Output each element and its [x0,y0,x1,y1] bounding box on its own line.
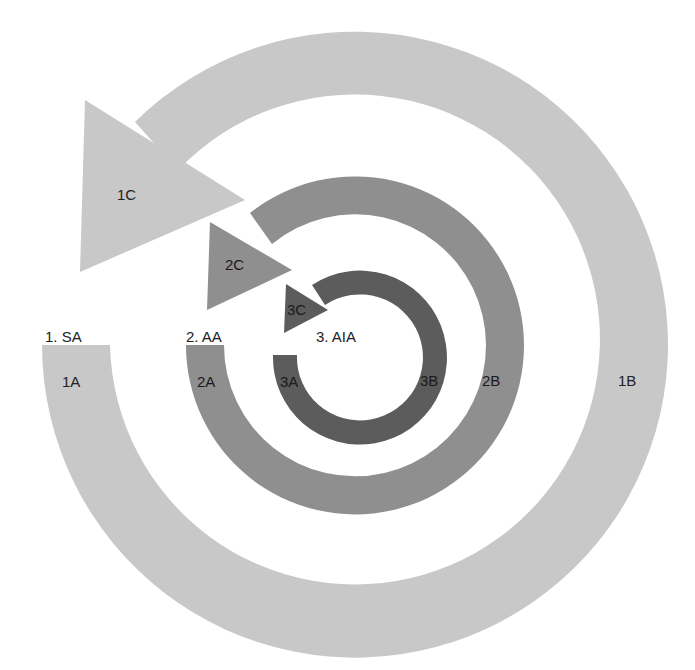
segment-1a-label: 1A [62,373,80,390]
segment-3a-label: 3A [280,373,298,390]
circular-arrows-diagram: 1. SA 2. AA 3. AIA 1A 1B 1C 2A 2B 2C 3A … [0,0,695,670]
ring-1-title: 1. SA [45,328,82,345]
ring-2-band [186,176,524,514]
ring-3-arrow [273,271,447,445]
segment-2c-label: 2C [225,256,244,273]
segment-2a-label: 2A [197,373,215,390]
segment-1c-label: 1C [117,186,136,203]
segment-2b-label: 2B [482,372,500,389]
segment-3c-label: 3C [287,301,306,318]
ring-2-title: 2. AA [186,328,222,345]
ring-2-arrow [186,176,524,514]
ring-3-title: 3. AIA [316,328,356,345]
segment-1b-label: 1B [618,372,636,389]
segment-3b-label: 3B [420,372,438,389]
